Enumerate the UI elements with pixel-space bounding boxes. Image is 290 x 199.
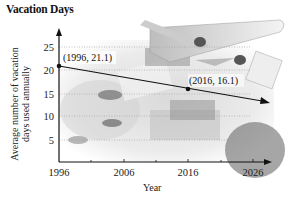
point-label-2016: (2016, 16.1) <box>189 75 238 87</box>
chart-title: Vacation Days <box>6 3 74 15</box>
y-tick-15: 15 <box>44 89 55 100</box>
x-axis-label: Year <box>143 182 161 193</box>
chart-canvas: 25 20 15 10 5 1996 2006 2016 2026 (1996,… <box>0 0 290 199</box>
x-tick-1996: 1996 <box>49 167 70 178</box>
y-tick-25: 25 <box>44 42 55 53</box>
data-point-2016 <box>186 87 191 92</box>
x-tick-2016: 2016 <box>178 167 199 178</box>
data-point-1996 <box>57 64 62 69</box>
y-tick-5: 5 <box>49 135 54 146</box>
y-axis-label-line2: days used annually <box>20 34 31 174</box>
y-tick-labels: 25 20 15 10 5 <box>44 42 55 146</box>
y-tick-10: 10 <box>44 111 55 122</box>
point-label-1996: (1996, 21.1) <box>63 52 112 64</box>
y-axis-label-line1: Average number of vacation <box>9 34 20 174</box>
y-axis-label: Average number of vacation days used ann… <box>9 34 31 174</box>
x-tick-2006: 2006 <box>114 167 135 178</box>
x-tick-2026: 2026 <box>243 167 264 178</box>
y-tick-20: 20 <box>44 65 55 76</box>
x-tick-labels: 1996 2006 2016 2026 <box>49 167 264 178</box>
